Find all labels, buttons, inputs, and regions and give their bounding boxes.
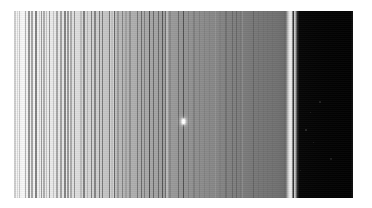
figure-page [0,0,372,208]
ring-scan-image-plate [14,11,353,198]
moonlet-bright-point [182,119,185,124]
ringlet-highlight-overlay [14,11,353,198]
